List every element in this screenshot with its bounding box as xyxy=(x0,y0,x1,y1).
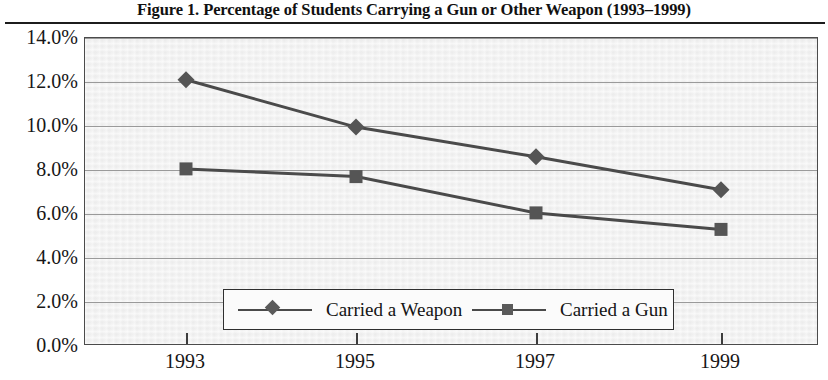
title-divider xyxy=(5,22,825,24)
y-axis-tick-label: 2.0% xyxy=(2,291,78,311)
data-point-diamond xyxy=(713,181,730,198)
chart-area: 0.0%2.0%4.0%6.0%8.0%10.0%12.0%14.0% Carr… xyxy=(0,26,828,380)
legend[interactable]: Carried a Weapon Carried a Gun xyxy=(223,289,674,330)
square-marker-icon xyxy=(472,300,546,320)
data-point-square xyxy=(180,162,193,175)
data-point-square xyxy=(350,170,363,183)
x-axis-tick-label: 1993 xyxy=(125,350,245,372)
legend-label-gun: Carried a Gun xyxy=(560,300,668,319)
plot-frame: Carried a Weapon Carried a Gun xyxy=(84,37,818,345)
data-point-square xyxy=(530,206,543,219)
y-axis-tick-label: 14.0% xyxy=(2,27,78,47)
x-axis-tick-label: 1997 xyxy=(475,350,595,372)
data-point-diamond xyxy=(178,71,195,88)
x-axis-tick-label: 1995 xyxy=(295,350,415,372)
y-axis-tick-label: 8.0% xyxy=(2,159,78,179)
y-axis-tick-label: 0.0% xyxy=(2,335,78,355)
y-axis-tick-label: 12.0% xyxy=(2,71,78,91)
y-axis-tick-label: 10.0% xyxy=(2,115,78,135)
legend-item-weapon[interactable]: Carried a Weapon xyxy=(238,290,462,329)
figure-container: Figure 1. Percentage of Students Carryin… xyxy=(0,0,828,380)
figure-title: Figure 1. Percentage of Students Carryin… xyxy=(0,0,828,20)
series-line xyxy=(186,169,721,230)
y-axis-tick-label: 4.0% xyxy=(2,247,78,267)
x-axis-tick-label: 1999 xyxy=(660,350,780,372)
diamond-marker-icon xyxy=(238,300,312,320)
y-axis-labels: 0.0%2.0%4.0%6.0%8.0%10.0%12.0%14.0% xyxy=(0,26,78,356)
legend-label-weapon: Carried a Weapon xyxy=(326,300,462,319)
data-point-diamond xyxy=(528,148,545,165)
data-point-diamond xyxy=(348,119,365,136)
legend-item-gun[interactable]: Carried a Gun xyxy=(472,290,668,329)
y-axis-tick-label: 6.0% xyxy=(2,203,78,223)
data-point-square xyxy=(715,223,728,236)
